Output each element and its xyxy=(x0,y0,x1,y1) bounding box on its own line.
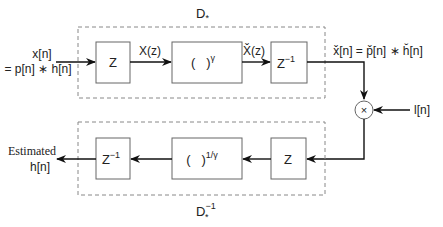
block-z-transform-label: Z xyxy=(109,55,117,70)
input-label-line1: x[n] xyxy=(32,47,51,61)
cepstrum-output-label: x̌[n] = p̌[n] ∗ ȟ[n] xyxy=(333,43,423,58)
output-label-line1: Estimated xyxy=(8,144,56,158)
block-z-transform-2-label: Z xyxy=(284,152,292,167)
multiplier-to-bottom-arrow xyxy=(307,119,364,159)
edge-xz-label: X(z) xyxy=(139,44,161,58)
block-diagram: D* x[n] = p[n] ∗ h[n] Z X(z) ( )γ X̌(z) … xyxy=(0,0,443,227)
lifter-label: l[n] xyxy=(414,103,430,117)
bottom-group-label-sub: * xyxy=(205,212,209,222)
input-label-line2: = p[n] ∗ h[n] xyxy=(4,62,71,76)
cepstrum-to-multiplier-arrow xyxy=(307,62,364,99)
output-label-line2: h[n] xyxy=(30,160,50,174)
edge-xcheck-label: X̌(z) xyxy=(243,43,265,58)
top-group-label: D* xyxy=(196,6,209,23)
multiplier-symbol: × xyxy=(361,104,367,116)
